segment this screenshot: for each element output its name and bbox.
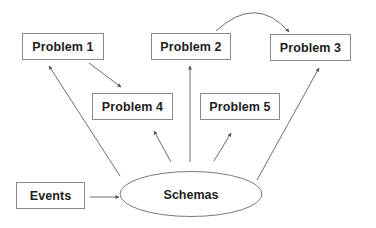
node-events: Events xyxy=(16,182,85,209)
edge-schemas-to-problem5 xyxy=(214,133,231,161)
edge-problem2-to-problem3-curved xyxy=(216,13,289,32)
node-problem-5: Problem 5 xyxy=(200,93,280,120)
node-label: Problem 5 xyxy=(209,100,270,114)
edge-problem1-to-problem4 xyxy=(89,63,121,87)
node-problem-1: Problem 1 xyxy=(22,33,104,60)
node-label: Problem 2 xyxy=(160,40,221,54)
node-label: Problem 4 xyxy=(102,100,163,114)
node-schemas: Schemas xyxy=(120,172,262,217)
node-label: Problem 3 xyxy=(280,41,341,55)
node-problem-2: Problem 2 xyxy=(151,33,231,60)
edge-schemas-to-problem1 xyxy=(49,66,120,176)
edge-schemas-to-problem3 xyxy=(257,68,319,180)
node-label: Problem 1 xyxy=(32,40,93,54)
node-label: Schemas xyxy=(164,188,219,202)
node-label: Events xyxy=(30,189,72,203)
node-problem-4: Problem 4 xyxy=(92,93,173,120)
diagram-canvas: Problem 1 Problem 2 Problem 3 Problem 4 … xyxy=(0,0,376,228)
node-problem-3: Problem 3 xyxy=(270,34,351,61)
edge-schemas-to-problem4 xyxy=(154,131,171,162)
